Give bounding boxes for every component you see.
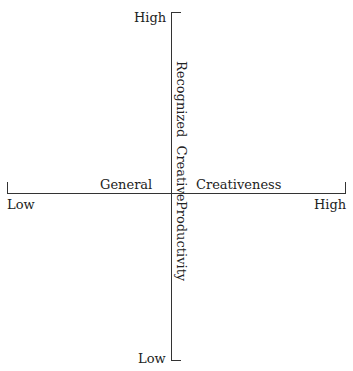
vertical-axis-title-upper: Recognized Creative (175, 61, 188, 201)
vertical-axis-line (171, 12, 172, 361)
horizontal-axis-left-tick (7, 182, 8, 194)
horizontal-axis-low-label: Low (7, 198, 35, 211)
vertical-axis-top-tick (171, 12, 181, 13)
vertical-axis-high-label: High (134, 11, 166, 24)
vertical-axis-title-lower: Productivity (175, 201, 188, 281)
vertical-axis-low-label: Low (138, 352, 166, 365)
horizontal-axis-title-right: Creativeness (196, 178, 281, 191)
vertical-axis-bottom-tick (171, 360, 181, 361)
horizontal-axis-high-label: High (314, 198, 346, 211)
horizontal-axis-right-tick (345, 182, 346, 194)
horizontal-axis-title-left: General (100, 178, 152, 191)
